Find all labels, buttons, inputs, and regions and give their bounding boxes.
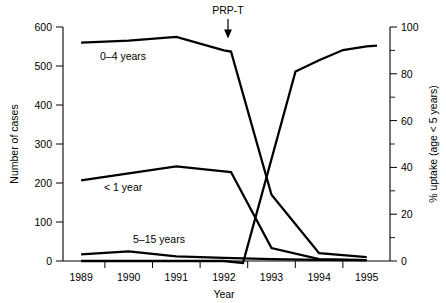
series-line-percent-uptake	[81, 46, 377, 263]
left-ticklabel-400: 400	[34, 99, 52, 111]
prp-t-arrow-head-icon	[225, 30, 231, 37]
x-ticklabel-1989: 1989	[69, 271, 93, 283]
right-ticklabel-40: 40	[401, 161, 413, 173]
prp-t-annotation: PRP-T	[212, 4, 244, 37]
x-ticklabel-1995: 1995	[355, 271, 379, 283]
series-label-under-1-year: < 1 year	[104, 181, 143, 193]
right-ticklabel-0: 0	[401, 255, 407, 267]
chart-figure: 600 500 400 300 200 100 0 Number of case…	[0, 0, 446, 303]
x-ticklabel-1990: 1990	[117, 271, 141, 283]
x-axis-title: Year	[213, 288, 235, 300]
left-axis: 600 500 400 300 200 100 0 Number of case…	[8, 21, 63, 267]
x-ticklabel-1992: 1992	[212, 271, 236, 283]
left-ticklabel-0: 0	[46, 255, 52, 267]
series-line-0-4-years	[81, 37, 367, 257]
right-axis: 100 80 60 40 20 0 % uptake (age < 5 year…	[390, 21, 439, 267]
right-axis-title: % uptake (age < 5 years)	[427, 85, 439, 203]
series-label-0-4-years: 0–4 years	[100, 50, 146, 62]
x-axis: 1989 1990 1991 1992 1993 1994 1995 Year	[63, 261, 390, 300]
left-ticklabel-500: 500	[34, 60, 52, 72]
left-axis-title: Number of cases	[8, 104, 20, 183]
right-ticklabel-60: 60	[401, 115, 413, 127]
left-ticklabel-600: 600	[34, 21, 52, 33]
x-ticklabel-1991: 1991	[165, 271, 189, 283]
series-label-5-15-years: 5–15 years	[133, 233, 185, 245]
prp-t-label: PRP-T	[212, 4, 244, 16]
right-ticklabel-80: 80	[401, 68, 413, 80]
right-ticklabel-100: 100	[401, 21, 419, 33]
x-ticklabel-1993: 1993	[260, 271, 284, 283]
left-ticklabel-200: 200	[34, 177, 52, 189]
chart-svg: 600 500 400 300 200 100 0 Number of case…	[0, 0, 446, 303]
x-ticklabel-1994: 1994	[307, 271, 331, 283]
right-ticklabel-20: 20	[401, 208, 413, 220]
left-ticklabel-300: 300	[34, 138, 52, 150]
left-ticklabel-100: 100	[34, 216, 52, 228]
